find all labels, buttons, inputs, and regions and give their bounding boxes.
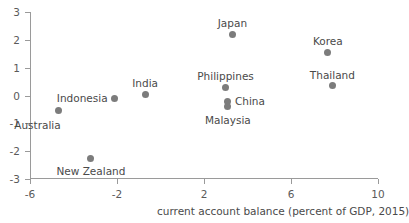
y-tick-label: 2 <box>2 35 20 46</box>
data-point-label: Philippines <box>197 71 254 82</box>
data-point-label: Australia <box>14 120 60 131</box>
data-point[interactable] <box>222 84 229 91</box>
y-tick-mark <box>25 151 30 152</box>
y-tick-label: 1 <box>2 63 20 74</box>
y-tick-label: 0 <box>2 91 20 102</box>
x-tick-label: -2 <box>97 189 137 200</box>
x-tick-label: 6 <box>271 189 311 200</box>
y-tick-mark <box>25 68 30 69</box>
data-point-label: Thailand <box>310 70 355 81</box>
x-tick-mark <box>204 179 205 184</box>
data-point-label: India <box>132 78 158 89</box>
data-point-label: Malaysia <box>205 115 251 126</box>
data-point[interactable] <box>229 31 236 38</box>
y-tick-label: 3 <box>2 7 20 18</box>
y-tick-mark <box>25 96 30 97</box>
data-point-label: China <box>235 96 265 107</box>
x-tick-mark <box>291 179 292 184</box>
x-tick-mark <box>117 179 118 184</box>
x-axis-title: current account balance (percent of GDP,… <box>157 206 409 217</box>
data-point-label: Japan <box>218 18 247 29</box>
x-tick-mark <box>378 179 379 184</box>
y-tick-mark <box>25 12 30 13</box>
data-point-label: New Zealand <box>56 166 125 177</box>
y-tick-mark <box>25 40 30 41</box>
data-point-label: Indonesia <box>57 93 108 104</box>
x-tick-label: -6 <box>10 189 50 200</box>
x-tick-mark <box>30 179 31 184</box>
data-point-label: Korea <box>313 36 343 47</box>
data-point[interactable] <box>142 91 149 98</box>
x-tick-label: 10 <box>358 189 398 200</box>
y-tick-label: -3 <box>2 174 20 185</box>
x-tick-label: 2 <box>184 189 224 200</box>
y-tick-label: -2 <box>2 146 20 157</box>
